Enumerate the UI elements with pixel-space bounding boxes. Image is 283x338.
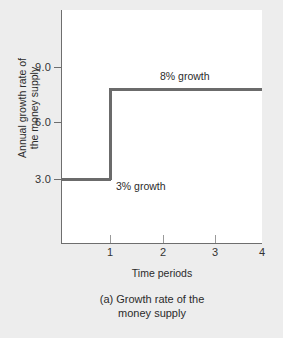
- x-axis-line: [61, 243, 262, 244]
- y-tick-mark-3: [54, 179, 62, 180]
- x-axis-title: Time periods: [62, 267, 262, 279]
- annotation-high-growth: 8% growth: [160, 70, 210, 82]
- x-tick-mark-3: [215, 235, 216, 243]
- x-tick-label-1: 1: [100, 246, 120, 258]
- y-axis-title: Annual growth rate of the money supply: [16, 38, 40, 178]
- data-line-segment-low: [62, 178, 111, 181]
- x-tick-mark-2: [163, 235, 164, 243]
- annotation-low-growth: 3% growth: [116, 180, 166, 192]
- x-tick-label-2: 2: [153, 246, 173, 258]
- y-axis-line: [61, 10, 62, 243]
- figure-caption: (a) Growth rate of the money supply: [42, 292, 262, 320]
- y-tick-mark-6: [54, 122, 62, 123]
- y-tick-mark-9: [54, 67, 62, 68]
- x-tick-mark-1: [110, 235, 111, 243]
- plot-area: [62, 10, 262, 243]
- x-tick-label-4: 4: [252, 246, 272, 258]
- data-line-segment-riser: [109, 88, 112, 180]
- figure-growth-rate-money-supply: 9.0 6.0 3.0 1 2 3 4 Annual growth rate o…: [0, 0, 283, 338]
- x-tick-label-3: 3: [205, 246, 225, 258]
- data-line-segment-high: [109, 88, 262, 91]
